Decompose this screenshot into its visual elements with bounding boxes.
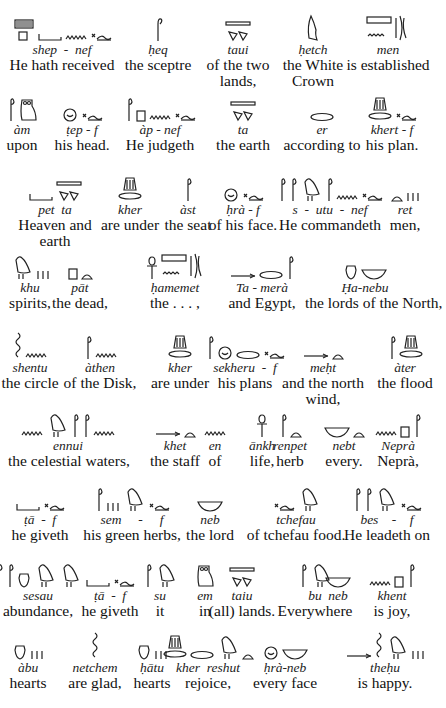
translation: men, — [345, 217, 446, 233]
hieroglyph-box-icon — [68, 268, 78, 280]
hieroglyph-loaf-icon — [391, 194, 403, 202]
hieroglyph-reed-icon — [388, 334, 396, 360]
translation: Neprà, — [338, 453, 446, 469]
hieroglyph-group — [338, 408, 446, 438]
hieroglyph-group — [8, 408, 128, 438]
hieroglyph-reed-icon — [6, 562, 14, 588]
hieroglyph-rope-icon — [375, 632, 383, 660]
word-group: khentis joy, — [332, 558, 446, 619]
word-group: retmen, — [345, 172, 446, 233]
hieroglyph-land-icon — [225, 20, 251, 42]
hieroglyph-group — [328, 12, 446, 42]
hieroglyph-group — [332, 558, 446, 588]
transliteration: Neprà — [338, 438, 446, 453]
hieroglyph-kher-icon — [163, 634, 187, 660]
word-group: àterthe flood — [345, 330, 446, 391]
translation: the flood — [345, 375, 446, 391]
transliteration: Ta - merà — [202, 280, 322, 295]
hieroglyph-reed-icon — [206, 334, 214, 360]
translation: is happy. — [325, 675, 445, 691]
hieroglyph-head-icon — [62, 108, 78, 122]
hieroglyph-viper-icon — [395, 112, 417, 122]
word-group: NepràNeprà, — [338, 408, 446, 469]
hieroglyph-reed-icon — [364, 486, 372, 512]
hieroglyph-reed-icon — [325, 176, 333, 202]
hieroglyph-strokes-icon — [411, 650, 425, 660]
word-group: bes - fHe leadeth on — [327, 482, 446, 543]
hieroglyph-bowl-icon — [361, 268, 387, 280]
translation: He leadeth on — [327, 527, 446, 543]
word-group: ennuithe celestial waters, — [8, 408, 128, 469]
word-group: Ta - meràand Egypt, — [202, 250, 322, 311]
hieroglyph-bird-icon — [46, 412, 68, 438]
hieroglyph-water-icon — [95, 352, 117, 360]
hieroglyph-rope-icon — [14, 332, 22, 360]
hieroglyph-loaf-icon — [81, 272, 93, 280]
word-group: theḥuis happy. — [325, 630, 445, 691]
hieroglyph-group — [345, 172, 446, 202]
hieroglyph-reed-icon — [353, 486, 361, 512]
hieroglyph-bowl-icon — [282, 648, 308, 660]
hieroglyph-reed-icon — [413, 412, 421, 438]
hieroglyph-group — [305, 250, 425, 280]
hieroglyph-crown-icon — [306, 14, 320, 42]
hieroglyph-land-icon — [229, 566, 255, 588]
hieroglyph-head-icon — [223, 188, 239, 202]
hieroglyph-ankh-icon — [146, 256, 158, 280]
hieroglyph-group — [345, 330, 446, 360]
hieroglyph-water-icon — [369, 580, 391, 588]
transliteration: khert - f — [332, 122, 446, 137]
transliteration: khent — [332, 588, 446, 603]
hieroglyph-flat-icon — [29, 192, 53, 202]
hieroglyph-box-icon — [136, 110, 146, 122]
hieroglyph-mouth-icon — [236, 350, 260, 360]
hieroglyph-head-icon — [263, 646, 279, 660]
hieroglyph-reed-icon — [278, 176, 286, 202]
hieroglyph-head-icon — [217, 346, 233, 360]
word-group: menis established — [328, 12, 446, 73]
hieroglyph-viper-icon — [400, 502, 422, 512]
hieroglyph-reed-icon — [407, 562, 415, 588]
translation: is established — [328, 57, 446, 73]
hieroglyph-group — [202, 250, 322, 280]
hieroglyph-viper-icon — [43, 502, 65, 512]
hieroglyph-water-icon — [21, 430, 43, 438]
hieroglyph-water-icon — [65, 34, 87, 42]
hieroglyph-sceptre-icon — [153, 16, 163, 42]
hieroglyph-group — [325, 630, 445, 660]
hieroglyph-mouth-icon — [190, 650, 214, 660]
hieroglyph-bird-icon — [123, 486, 145, 512]
hieroglyph-reed-icon — [286, 254, 294, 280]
hieroglyph-reed-icon — [95, 486, 103, 512]
hieroglyph-water-icon — [375, 430, 397, 438]
hieroglyph-reed-icon — [7, 96, 15, 122]
hieroglyph-mouth-icon — [310, 112, 334, 122]
hieroglyph-bird-icon — [375, 486, 397, 512]
hieroglyph-bird-icon — [298, 486, 320, 512]
hieroglyph-water-icon — [93, 430, 115, 438]
hieroglyph-box-icon — [400, 426, 410, 438]
word-group: khert - fhis plan. — [332, 92, 446, 153]
hieroglyph-kher-icon — [368, 96, 392, 122]
hieroglyph-reed-icon — [125, 96, 133, 122]
translation: is joy, — [332, 603, 446, 619]
hieroglyph-reed-icon — [71, 412, 79, 438]
translation: his plan. — [332, 137, 446, 153]
hieroglyph-kher-icon — [399, 334, 423, 360]
translation: the celestial waters, — [8, 453, 128, 469]
hieroglyph-reed-icon — [289, 176, 297, 202]
hieroglyph-flat-icon — [38, 32, 62, 42]
hieroglyph-jar-icon — [13, 644, 27, 660]
hieroglyph-water-icon — [149, 114, 171, 122]
transliteration: àter — [345, 360, 446, 375]
hieroglyph-men-icon — [366, 14, 410, 42]
transliteration: men — [328, 42, 446, 57]
word-group: Ḥa-nebuthe lords of the North, — [305, 250, 425, 311]
hieroglyph-reed-icon — [0, 562, 3, 588]
hieroglyph-box-icon — [394, 576, 404, 588]
hieroglyph-bird-icon — [386, 634, 408, 660]
transliteration: ret — [345, 202, 446, 217]
hieroglyph-flat-icon — [16, 502, 40, 512]
hieroglyph-group — [327, 482, 446, 512]
hieroglyph-stick-icon — [303, 352, 329, 360]
